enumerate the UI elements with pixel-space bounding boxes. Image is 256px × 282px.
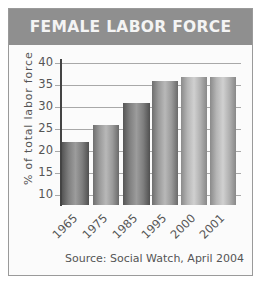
bar-1965 [62,142,89,205]
bar-2000 [181,77,207,205]
y-tick-35: 35 [31,77,53,91]
y-tick-20: 20 [31,143,53,157]
y-tick-25: 25 [31,121,53,135]
x-tick-1995: 1995 [138,211,169,242]
bar-1985 [123,103,150,205]
x-tick-1965: 1965 [49,211,80,242]
y-tick-15: 15 [31,165,53,179]
x-tick-2001: 2001 [196,211,227,242]
chart-frame: FEMALE LABOR FORCE % of total labor forc… [8,8,253,276]
source-note: Source: Social Watch, April 2004 [65,252,244,265]
bar-1995 [152,81,178,205]
y-axis-line [60,59,62,206]
plot-area: % of total labor force 40 35 30 25 20 15… [9,9,254,277]
y-tick-40: 40 [31,55,53,69]
x-tick-1985: 1985 [109,211,140,242]
bar-2001 [210,77,236,205]
y-tick-10: 10 [31,187,53,201]
gridline-40 [55,63,241,64]
y-tick-30: 30 [31,99,53,113]
x-tick-1975: 1975 [79,211,110,242]
x-tick-2000: 2000 [167,211,198,242]
bar-1975 [93,125,119,205]
